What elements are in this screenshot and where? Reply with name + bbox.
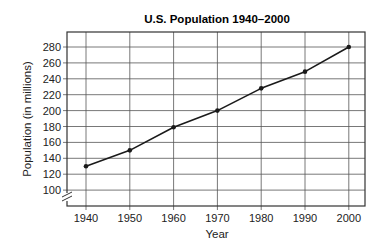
x-tick-label: 1950 xyxy=(118,212,142,224)
x-tick-label: 1980 xyxy=(249,212,273,224)
y-tick-label: 260 xyxy=(43,57,61,69)
line-chart: U.S. Population 1940–2000 10012014016018… xyxy=(0,0,385,250)
y-tick-label: 120 xyxy=(43,168,61,180)
vertical-gridlines xyxy=(86,32,349,210)
x-tick-label: 1960 xyxy=(161,212,185,224)
plot-frame xyxy=(67,32,365,206)
y-tick-label: 240 xyxy=(43,73,61,85)
y-tick-label: 280 xyxy=(43,41,61,53)
x-tick-label: 1940 xyxy=(74,212,98,224)
data-point-marker xyxy=(259,86,264,91)
y-axis-tick-labels: 100120140160180200220240260280 xyxy=(43,41,61,196)
x-tick-label: 1990 xyxy=(293,212,317,224)
y-tick-label: 200 xyxy=(43,105,61,117)
data-point-marker xyxy=(347,45,352,50)
data-point-marker xyxy=(171,125,176,130)
y-axis-label: Population (in millions) xyxy=(21,61,33,177)
y-tick-label: 100 xyxy=(43,184,61,196)
data-point-marker xyxy=(215,108,220,113)
y-tick-label: 220 xyxy=(43,89,61,101)
data-point-marker xyxy=(303,69,308,74)
axis-break-icon xyxy=(62,192,72,201)
x-axis-tick-labels: 1940195019601970198019902000 xyxy=(74,212,361,224)
data-point-marker xyxy=(84,164,89,169)
x-tick-label: 2000 xyxy=(337,212,361,224)
x-axis-label: Year xyxy=(205,228,228,240)
x-tick-label: 1970 xyxy=(205,212,229,224)
y-tick-label: 140 xyxy=(43,152,61,164)
data-point-marker xyxy=(128,148,133,153)
chart-title: U.S. Population 1940–2000 xyxy=(144,13,290,25)
y-tick-label: 160 xyxy=(43,136,61,148)
y-tick-label: 180 xyxy=(43,121,61,133)
horizontal-gridlines xyxy=(63,47,365,190)
